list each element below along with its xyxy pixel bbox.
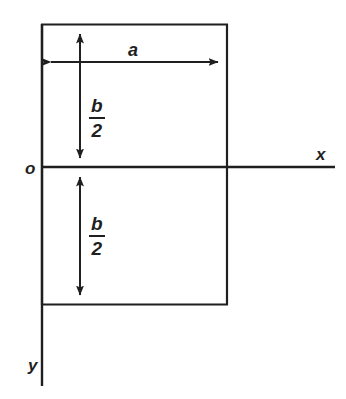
fraction-bar bbox=[89, 117, 105, 119]
fraction-denominator: 2 bbox=[89, 120, 105, 140]
origin-label: o bbox=[25, 160, 35, 177]
diagram-canvas: a b 2 b 2 o x y bbox=[0, 0, 346, 399]
fraction-bar bbox=[89, 235, 105, 237]
y-axis-label: y bbox=[28, 357, 37, 374]
dimension-label-upper-b-over-2: b 2 bbox=[89, 96, 105, 140]
fraction-numerator: b bbox=[89, 214, 105, 234]
cross-section-rectangle bbox=[41, 24, 228, 305]
fraction-denominator: 2 bbox=[89, 238, 105, 258]
dimension-label-lower-b-over-2: b 2 bbox=[89, 214, 105, 258]
fraction-numerator: b bbox=[89, 96, 105, 116]
diagram-vector-graphics bbox=[0, 0, 346, 399]
x-axis-label: x bbox=[316, 146, 325, 163]
dimension-label-a: a bbox=[128, 41, 138, 59]
